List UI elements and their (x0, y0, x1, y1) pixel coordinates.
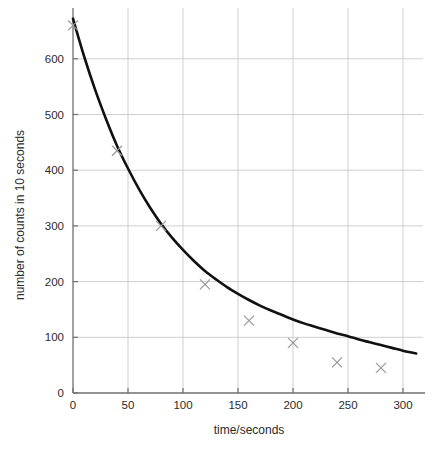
chart-container: 050100150200250300 0100200300400500600 t… (0, 0, 437, 449)
x-tick-label-0: 0 (70, 399, 76, 411)
y-tick-label-100: 100 (45, 331, 64, 343)
y-tick-label-600: 600 (45, 53, 64, 65)
x-tick-label-250: 250 (338, 399, 357, 411)
decay-curve-chart: 050100150200250300 0100200300400500600 t… (0, 0, 437, 449)
chart-background (0, 0, 437, 449)
x-axis-title: time/seconds (214, 423, 285, 437)
x-tick-label-200: 200 (283, 399, 302, 411)
x-tick-label-150: 150 (228, 399, 247, 411)
y-tick-label-200: 200 (45, 276, 64, 288)
y-tick-label-400: 400 (45, 164, 64, 176)
x-tick-label-50: 50 (122, 399, 135, 411)
y-tick-label-500: 500 (45, 109, 64, 121)
x-tick-label-300: 300 (393, 399, 412, 411)
y-tick-label-300: 300 (45, 220, 64, 232)
y-axis-title: number of counts in 10 seconds (13, 130, 27, 300)
y-tick-label-0: 0 (58, 387, 64, 399)
x-tick-label-100: 100 (173, 399, 192, 411)
